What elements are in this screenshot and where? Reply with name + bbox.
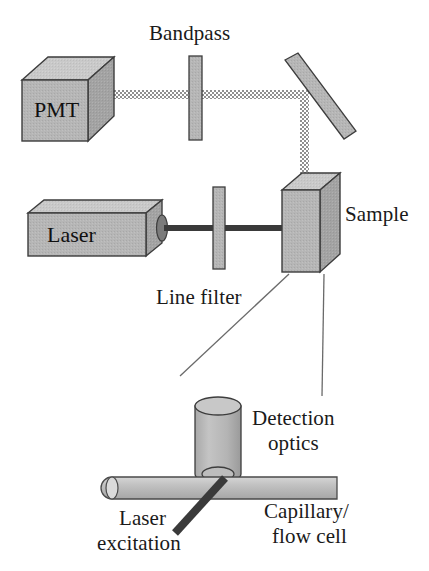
line-filter-slab [213, 187, 225, 269]
laser-top-face [28, 200, 162, 213]
emission-beam-path [113, 90, 309, 185]
emission-beam-horizontal [113, 90, 309, 99]
excitation-beam-path [164, 225, 302, 231]
capillary-end-cap [106, 477, 118, 499]
sample-body [282, 173, 340, 272]
bandpass-filter-slab [189, 56, 202, 140]
bandpass-label: Bandpass [149, 21, 230, 45]
sample-side-face [320, 173, 340, 272]
detection-optics-label-line2: optics [268, 431, 319, 455]
line-filter-label: Line filter [156, 285, 242, 309]
detection-optics-top-ellipse [195, 397, 241, 415]
optical-setup-diagram: PMT Laser Bandpass Sample Line filter De… [0, 0, 429, 571]
sample-front-face [282, 190, 320, 272]
callout-line-right [322, 274, 324, 396]
emission-beam-vertical [300, 90, 309, 185]
pmt-label: PMT [34, 97, 79, 123]
line-filter-body [213, 187, 225, 269]
sample-label: Sample [345, 202, 409, 226]
capillary-label-line1: Capillary/ [264, 499, 349, 523]
detection-optics-label-line1: Detection [252, 406, 335, 430]
detection-optics-body [195, 397, 241, 483]
bandpass-filter-body [189, 56, 202, 140]
laser-label: Laser [47, 222, 96, 248]
laser-excitation-label-line1: Laser [119, 506, 166, 530]
excitation-beam-line [164, 225, 302, 231]
laser-excitation-label-line2: excitation [97, 531, 181, 555]
capillary-label-line2: flow cell [272, 524, 347, 548]
